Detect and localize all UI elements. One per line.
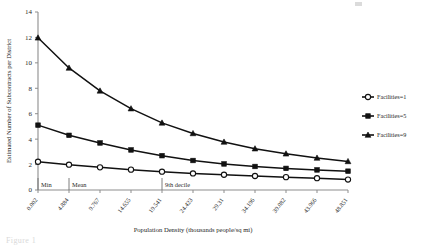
data-point [222,162,227,167]
annotation-label: Min [41,181,52,188]
legend: Facilities=1Facilities=5Facilities=9 [362,93,406,138]
data-point [345,177,350,182]
x-tick-label: 43.966 [302,196,318,214]
legend-item-label: Facilities=9 [377,131,406,138]
x-tick-label: 29.31 [211,196,225,211]
x-axis [38,190,348,193]
data-point [128,167,133,172]
x-tick-label: 9.767 [87,196,101,211]
data-point [67,133,72,138]
data-point [221,172,226,177]
data-point [284,166,289,171]
legend-item-label: Facilities=1 [377,93,406,100]
x-tick-label: 48.851 [333,196,349,214]
series-3 [35,35,351,164]
scan-artifact [355,2,362,6]
y-tick-label: 12 [25,34,33,42]
series-group [35,35,351,182]
data-point [252,173,257,178]
x-tick-label: 24.423 [178,196,194,214]
y-tick-label: 10 [25,59,33,67]
y-tick-label: 0 [29,186,33,194]
data-point [36,123,41,128]
data-point [283,175,288,180]
line-chart: 02468101214 MinMean9th decile 0.0024.884… [0,0,430,248]
data-point [191,158,196,163]
y-tick-label: 14 [25,8,33,16]
data-point [66,162,71,167]
y-tick-label: 4 [29,136,33,144]
data-point [253,164,258,169]
legend-item[interactable]: Facilities=9 [362,131,406,138]
legend-marker [366,114,371,119]
annotation-label: Mean [72,181,87,188]
x-tick-label: 34.196 [240,196,256,214]
x-axis-title: Population Density (thousands people/sq … [134,226,253,234]
x-tick-label-group: 0.0024.8849.76714.65519.54124.42329.3134… [25,196,349,214]
figure-caption: Figure 1 [6,236,36,245]
y-axis-title: Estimated Number of Subcontracts per Dis… [5,39,12,163]
data-point [159,169,164,174]
y-tick-label: 8 [29,85,33,93]
y-tick-group: 02468101214 [25,8,38,194]
annotation-group: MinMean9th decile [38,178,190,190]
data-point [190,171,195,176]
data-point [315,168,320,173]
data-point [97,165,102,170]
y-tick-label: 2 [29,161,33,169]
legend-item-label: Facilities=5 [377,112,406,119]
data-point [35,159,40,164]
series-line [38,38,348,162]
x-tick-label: 19.541 [147,196,163,214]
data-point [129,148,134,153]
legend-marker [365,94,370,99]
figure-panel: 02468101214 MinMean9th decile 0.0024.884… [0,0,430,248]
x-tick-label: 39.082 [271,196,287,214]
data-point [160,153,165,158]
y-axis: 02468101214 [25,8,38,194]
y-tick-label: 6 [29,110,33,118]
x-tick-label: 14.655 [116,196,132,214]
data-point [98,141,103,146]
data-point [314,176,319,181]
legend-item[interactable]: Facilities=5 [362,112,406,119]
annotation-label: 9th decile [165,181,190,188]
data-point [346,169,351,174]
legend-item[interactable]: Facilities=1 [362,93,406,100]
x-tick-label: 4.884 [56,196,70,211]
x-tick-label: 0.002 [25,196,39,211]
